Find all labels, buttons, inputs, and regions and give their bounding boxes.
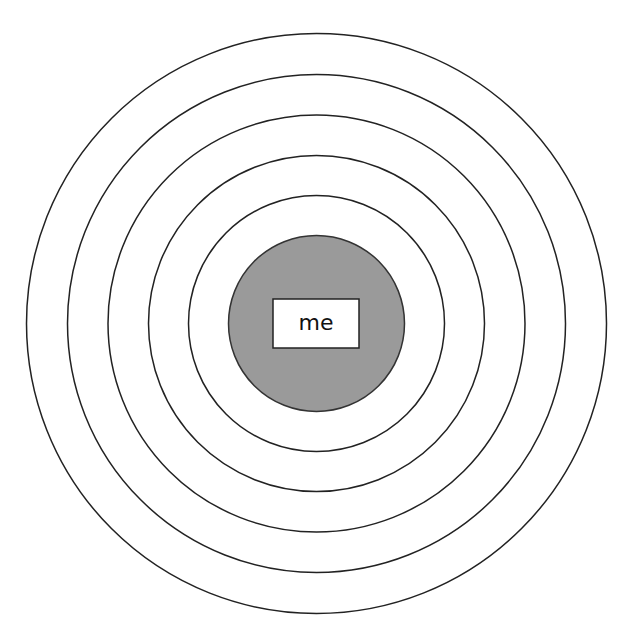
concentric-circles-diagram: me [0, 0, 632, 642]
center-label: me [299, 310, 334, 335]
